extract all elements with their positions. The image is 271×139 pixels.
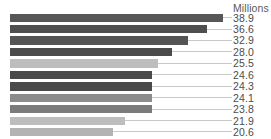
bar-row: 32.9 [0,36,271,47]
bar-row: 24.1 [0,93,271,104]
bar-rows-container: 38.936.632.928.025.524.624.324.123.821.9… [0,13,271,139]
bar [10,82,152,90]
horizontal-bar-chart: Millions 38.936.632.928.025.524.624.324.… [0,0,271,139]
bar-row: 24.3 [0,82,271,93]
bar [10,48,172,56]
bar-value-label: 24.6 [233,69,254,81]
bar [10,128,113,136]
bar [10,14,223,22]
bar-row: 38.9 [0,13,271,24]
bar-row: 36.6 [0,24,271,35]
bar-row: 23.8 [0,105,271,116]
bar-value-label: 24.1 [233,92,254,104]
bar [10,36,188,44]
bar-value-label: 38.9 [233,12,254,24]
bar-row: 24.6 [0,70,271,81]
bar [10,94,152,102]
bar-row: 21.9 [0,116,271,127]
bar [10,25,207,33]
bar-value-label: 21.9 [233,115,254,127]
bar-row: 20.6 [0,127,271,138]
bar-value-label: 25.5 [233,57,254,69]
bar-row: 25.5 [0,59,271,70]
bar-value-label: 36.6 [233,23,254,35]
bar-row: 28.0 [0,47,271,58]
bar [10,117,125,125]
bar [10,71,152,79]
bar-value-label: 23.8 [233,103,254,115]
bar-value-label: 32.9 [233,34,254,46]
bar [10,59,158,67]
bar-value-label: 20.6 [233,126,254,138]
bar-value-label: 24.3 [233,80,254,92]
bar [10,105,152,113]
bar-value-label: 28.0 [233,46,254,58]
